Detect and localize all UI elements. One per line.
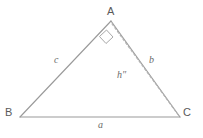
side-label-b: b xyxy=(149,55,154,65)
vertex-label-a: A xyxy=(107,6,114,17)
vertex-label-b: B xyxy=(5,107,12,118)
triangle-diagram-svg xyxy=(0,0,203,138)
altitude-label-h: h″ xyxy=(117,70,126,80)
side-c-line xyxy=(20,21,111,117)
side-label-a: a xyxy=(98,120,103,130)
right-angle-mark xyxy=(100,30,114,44)
geometry-figure: A B C c b a h″ xyxy=(0,0,203,138)
side-label-c: c xyxy=(54,55,58,65)
vertex-label-c: C xyxy=(183,107,191,118)
